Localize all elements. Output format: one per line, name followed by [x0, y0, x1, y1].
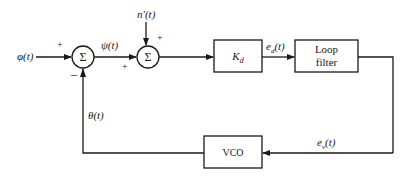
sum2-plus-left-sign: + — [122, 62, 128, 72]
loop-filter-block: Loop filter — [295, 43, 358, 69]
sum2-plus-top-sign: + — [157, 33, 163, 43]
ev-signal-label: ev(t) — [317, 137, 335, 151]
vco-block: VCO — [204, 146, 262, 159]
sum1-minus-sign: − — [70, 69, 77, 82]
kd-subscript: d — [240, 56, 244, 65]
summer-1-symbol: Σ — [72, 46, 94, 68]
ed-signal-label: ed(t) — [266, 41, 285, 55]
theta-signal-label: θ(t) — [88, 110, 104, 121]
noise-input-label: n′(t) — [137, 9, 155, 20]
input-phi-label: φ(t) — [17, 51, 33, 62]
wire-loop-filter-out — [358, 57, 393, 153]
loop-filter-line2: filter — [295, 56, 358, 69]
sum1-plus-sign: + — [57, 40, 63, 50]
kd-label: K — [232, 50, 239, 62]
kd-block: Kd — [214, 50, 262, 67]
psi-signal-label: ψ(t) — [101, 40, 118, 51]
theta-arrowhead — [80, 68, 86, 77]
summer-2-symbol: Σ — [137, 46, 159, 68]
loop-filter-line1: Loop — [295, 43, 358, 56]
